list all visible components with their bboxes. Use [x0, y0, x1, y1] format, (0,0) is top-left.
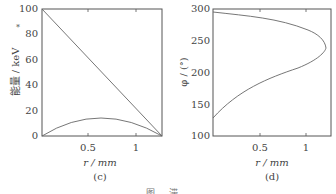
- svg-text:1: 1: [133, 142, 139, 153]
- svg-text:0.5: 0.5: [80, 142, 96, 153]
- lower-curve-c: [42, 118, 162, 136]
- svg-text:150: 150: [191, 99, 210, 110]
- svg-text:20: 20: [25, 105, 38, 116]
- chart-panel-d: 100 150 200 250 300 0.5 1 r / mm φ / (°)…: [168, 0, 336, 186]
- panel-label-d: (d): [265, 171, 279, 182]
- svg-text:60: 60: [25, 54, 38, 65]
- panel-label-c: (c): [93, 171, 107, 182]
- svg-text:100: 100: [19, 3, 38, 14]
- svg-text:1: 1: [303, 142, 309, 153]
- svg-text:100: 100: [191, 130, 210, 141]
- phi-curve-d: [213, 12, 326, 118]
- x-ticks-c: 0.5 1: [80, 142, 139, 153]
- y-axis-label-c: 能量 / keV: [9, 47, 21, 97]
- svg-text:300: 300: [191, 3, 210, 14]
- x-ticks-d: 0.5 1: [252, 142, 309, 153]
- svg-text:0.5: 0.5: [252, 142, 268, 153]
- y-axis-label-d: φ / (°): [178, 57, 189, 87]
- y-ticks-c: 0 20 40 60 80 100: [19, 3, 38, 141]
- y-ticks-d: 100 150 200 250 300: [191, 3, 210, 141]
- svg-text:0: 0: [32, 130, 38, 141]
- plot-frame-d: [213, 9, 331, 136]
- svg-text:80: 80: [25, 28, 38, 39]
- chart-panel-c: 0 20 40 60 80 100 0.5 1 r / mm 能量 / keV …: [0, 0, 168, 186]
- svg-text:*: *: [16, 23, 20, 32]
- x-axis-label-d: r / mm: [255, 157, 288, 168]
- upper-curve-c: [42, 9, 162, 136]
- svg-text:200: 200: [191, 67, 210, 78]
- svg-text:40: 40: [25, 79, 38, 90]
- x-axis-label-c: r / mm: [83, 157, 116, 168]
- svg-text:250: 250: [191, 35, 210, 46]
- figure-caption: 图 … 滞 …: [0, 186, 336, 194]
